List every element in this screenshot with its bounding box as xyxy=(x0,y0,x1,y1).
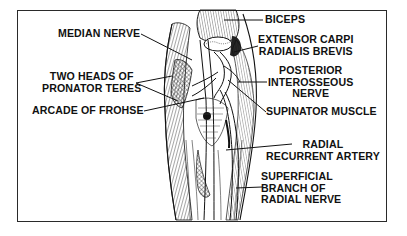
label-supinator-muscle: SUPINATOR MUSCLE xyxy=(266,106,377,118)
label-line: NERVE xyxy=(268,88,353,100)
label-radial-recurrent-artery: RADIAL RECURRENT ARTERY xyxy=(266,139,380,162)
label-line: RADIALIS BREVIS xyxy=(258,46,354,58)
label-line: ARCADE OF FROHSE xyxy=(32,105,144,117)
label-pronator-teres: TWO HEADS OF PRONATOR TERES xyxy=(42,71,141,94)
label-line: RADIAL NERVE xyxy=(261,194,341,206)
arcade-nodule xyxy=(203,112,211,120)
label-arcade-of-frohse: ARCADE OF FROHSE xyxy=(32,105,144,117)
label-extensor-carpi-radialis-brevis: EXTENSOR CARPI RADIALIS BREVIS xyxy=(258,34,354,57)
label-line: POSTERIOR xyxy=(268,65,353,77)
label-line: TWO HEADS OF xyxy=(42,71,141,83)
label-line: SUPINATOR MUSCLE xyxy=(266,106,377,118)
label-superficial-branch-radial-nerve: SUPERFICIAL BRANCH OF RADIAL NERVE xyxy=(261,171,341,206)
supinator-muscle xyxy=(196,98,228,146)
flexor-muscle-mass xyxy=(164,23,192,220)
label-line: MEDIAN NERVE xyxy=(58,28,140,40)
label-line: EXTENSOR CARPI xyxy=(258,34,354,46)
label-line: SUPERFICIAL xyxy=(261,171,341,183)
label-line: BICEPS xyxy=(265,14,305,26)
label-posterior-interosseous-nerve: POSTERIOR INTEROSSEOUS NERVE xyxy=(268,65,353,100)
label-line: PRONATOR TERES xyxy=(42,83,141,95)
label-line: RADIAL xyxy=(266,139,380,151)
pronator-teres-muscle xyxy=(171,59,192,108)
label-median-nerve: MEDIAN NERVE xyxy=(58,28,140,40)
deep-structures xyxy=(197,150,211,197)
label-biceps: BICEPS xyxy=(265,14,305,26)
label-line: RECURRENT ARTERY xyxy=(266,151,380,163)
